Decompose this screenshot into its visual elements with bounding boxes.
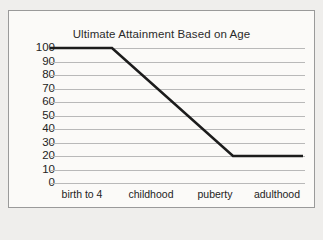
y-tick-label-40: 40 <box>15 123 55 135</box>
y-tick-label-0: 0 <box>15 177 55 189</box>
y-tick-label-100: 100 <box>15 42 55 54</box>
y-tick-label-50: 50 <box>15 110 55 122</box>
gridline-0 <box>50 183 305 184</box>
gridline-100 <box>50 48 305 49</box>
chart-title: Ultimate Attainment Based on Age <box>9 28 314 40</box>
y-tick-label-70: 70 <box>15 83 55 95</box>
gridline-70 <box>50 89 305 90</box>
y-tick-label-30: 30 <box>15 137 55 149</box>
y-tick-label-10: 10 <box>15 164 55 176</box>
x-tick-label-adulthood: adulthood <box>243 188 311 200</box>
y-tick-label-60: 60 <box>15 96 55 108</box>
y-tick-label-20: 20 <box>15 150 55 162</box>
gridline-80 <box>50 75 305 76</box>
x-tick-label-childhood: childhood <box>118 188 184 200</box>
gridline-30 <box>50 143 305 144</box>
y-tick-label-80: 80 <box>15 69 55 81</box>
gridline-20 <box>50 156 305 157</box>
gridline-40 <box>50 129 305 130</box>
x-tick-label-birth-to-4: birth to 4 <box>47 188 117 200</box>
gridline-90 <box>50 62 305 63</box>
x-tick-label-puberty: puberty <box>187 188 243 200</box>
gridline-50 <box>50 116 305 117</box>
y-tick-label-90: 90 <box>15 56 55 68</box>
gridline-60 <box>50 102 305 103</box>
gridline-10 <box>50 170 305 171</box>
